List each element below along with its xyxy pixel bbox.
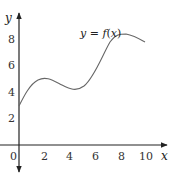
y-axis-label: y bbox=[4, 11, 12, 25]
x-axis-label: x bbox=[161, 149, 168, 163]
x-tick-labels: 0 2 4 6 8 10 bbox=[10, 150, 153, 163]
x-tick-8: 8 bbox=[118, 150, 125, 163]
y-tick-2: 2 bbox=[8, 112, 15, 125]
x-tick-4: 4 bbox=[66, 150, 73, 163]
y-tick-4: 4 bbox=[8, 86, 15, 99]
curve-label: y = f(x) bbox=[79, 27, 121, 40]
chart-canvas: y x 0 2 4 6 8 10 2 4 6 8 y = f(x) bbox=[0, 0, 177, 185]
x-tick-2: 2 bbox=[41, 150, 48, 163]
y-tick-8: 8 bbox=[8, 33, 15, 46]
x-tick-10: 10 bbox=[139, 150, 153, 163]
y-tick-6: 6 bbox=[8, 59, 15, 72]
x-tick-6: 6 bbox=[92, 150, 99, 163]
curve-f-of-x bbox=[19, 34, 145, 106]
y-tick-labels: 2 4 6 8 bbox=[8, 33, 15, 125]
x-tick-0: 0 bbox=[10, 150, 17, 163]
